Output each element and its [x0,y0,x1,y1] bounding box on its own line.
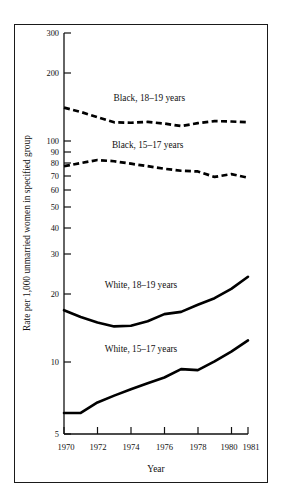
figure: 300 200 100 90 80 70 60 50 40 30 20 10 5 [0,0,283,496]
y-tick-label: 10 [51,358,59,367]
y-tick-label: 200 [46,69,59,78]
y-tick-label: 300 [46,29,59,38]
x-tick-labels: 1970 1972 1974 1976 1978 1980 1981 [57,442,259,452]
x-tick-label: 1980 [220,442,237,452]
y-tick-label: 20 [51,290,59,299]
x-tick-label: 1972 [89,442,106,452]
x-tick-label: 1981 [242,442,259,452]
y-tick-label: 50 [51,203,59,212]
y-tick-label: 40 [51,224,59,233]
data-series-group [64,108,248,413]
y-tick-label: 100 [46,137,59,146]
series-line-black-18-19 [64,108,248,126]
x-tick-marks [64,427,248,434]
y-axis-title: Rate per 1,000 unmarried women in specif… [22,135,32,331]
y-tick-marks [64,33,71,434]
x-axis-title: Year [147,464,165,474]
series-line-black-15-17 [64,160,248,178]
line-chart: 300 200 100 90 80 70 60 50 40 30 20 10 5 [0,0,283,496]
y-tick-label: 30 [51,250,59,259]
y-tick-label: 80 [51,159,59,168]
y-tick-label: 90 [51,148,59,157]
series-label-black-18-19: Black, 18–19 years [114,93,186,103]
y-tick-label: 70 [51,172,59,181]
y-tick-label: 60 [51,186,59,195]
x-tick-label: 1978 [189,442,206,452]
x-tick-label: 1976 [156,442,174,452]
series-label-white-18-19: White, 18–19 years [105,280,178,290]
y-tick-labels: 300 200 100 90 80 70 60 50 40 30 20 10 5 [46,29,59,439]
x-tick-label: 1974 [122,442,140,452]
y-tick-label: 5 [55,430,59,439]
x-tick-label: 1970 [57,442,74,452]
series-annotations: Black, 18–19 years Black, 15–17 years Wh… [105,93,186,354]
series-label-black-15-17: Black, 15–17 years [112,140,184,150]
series-label-white-15-17: White, 15–17 years [105,344,178,354]
